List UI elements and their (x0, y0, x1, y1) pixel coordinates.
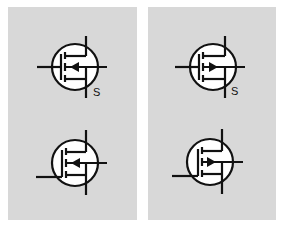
mosfet-p-channel-bottom-icon (0, 0, 285, 231)
